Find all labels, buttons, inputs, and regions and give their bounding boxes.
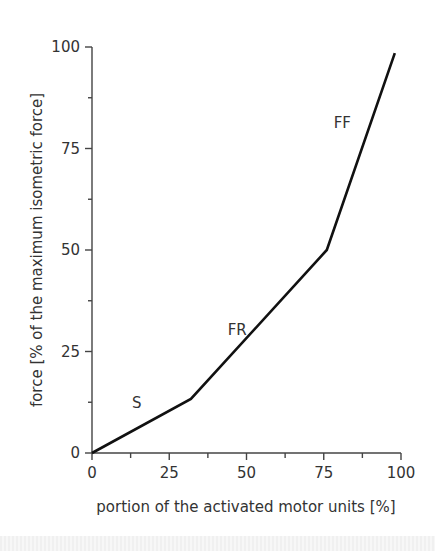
tick-labels: 02550751000255075100 bbox=[51, 38, 415, 482]
y-tick-label: 50 bbox=[61, 241, 80, 259]
data-line bbox=[92, 53, 395, 453]
segment-label-fr: FR bbox=[228, 321, 247, 339]
y-tick-label: 25 bbox=[61, 343, 80, 361]
x-axis-label: portion of the activated motor units [%] bbox=[96, 498, 395, 516]
x-tick-label: 100 bbox=[387, 464, 416, 482]
y-tick-label: 75 bbox=[61, 140, 80, 158]
segment-label-s: S bbox=[132, 394, 142, 412]
segment-label-ff: FF bbox=[334, 114, 351, 132]
footer-band bbox=[0, 536, 435, 551]
x-tick-label: 50 bbox=[237, 464, 256, 482]
x-tick-label: 25 bbox=[160, 464, 179, 482]
y-axis-label: force [% of the maximum isometric force] bbox=[28, 93, 46, 407]
axes bbox=[92, 47, 401, 453]
y-tick-label: 100 bbox=[51, 38, 80, 56]
segment-labels: SFRFF bbox=[132, 114, 351, 412]
y-tick-label: 0 bbox=[70, 444, 80, 462]
chart: 02550751000255075100 SFRFF portion of th… bbox=[0, 0, 435, 551]
x-tick-label: 0 bbox=[87, 464, 97, 482]
x-tick-label: 75 bbox=[314, 464, 333, 482]
